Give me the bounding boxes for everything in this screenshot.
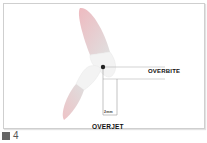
figure-number: 4 xyxy=(13,130,19,141)
upper-tooth-root xyxy=(79,8,110,55)
lower-tooth-crown xyxy=(76,66,100,90)
overjet-label: OVERJET xyxy=(92,123,124,130)
figure-icon xyxy=(2,132,10,140)
contact-point xyxy=(101,65,105,69)
measurement-label: 2mm xyxy=(104,110,113,114)
figure-caption: 4 xyxy=(2,130,19,141)
lower-tooth-root xyxy=(63,84,84,120)
overbite-label: OVERBITE xyxy=(148,68,180,74)
